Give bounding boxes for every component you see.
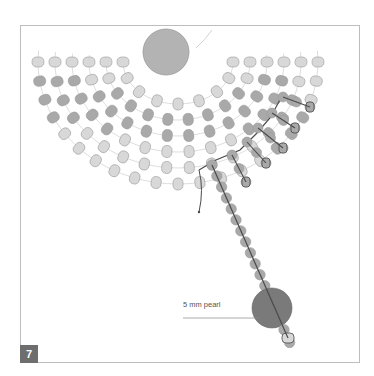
seed-bead: [150, 94, 163, 108]
seed-bead: [38, 93, 53, 107]
seed-bead: [140, 124, 153, 138]
seed-bead: [244, 57, 256, 67]
seed-bead: [240, 72, 255, 86]
seed-bead: [278, 57, 290, 67]
seed-bead: [275, 74, 289, 87]
seed-bead: [88, 153, 103, 168]
seed-bead: [221, 115, 236, 130]
seed-bead: [139, 140, 152, 154]
seed-bead: [33, 75, 47, 87]
seed-bead: [161, 145, 172, 158]
seed-bead: [120, 115, 135, 130]
seed-bead: [141, 107, 155, 122]
seed-bead: [150, 176, 162, 189]
fringe-strands: [227, 92, 315, 187]
seed-bead: [99, 121, 114, 137]
seed-bead: [46, 110, 61, 125]
seed-bead: [83, 57, 95, 67]
seed-bead: [66, 57, 78, 67]
seed-bead: [138, 157, 151, 171]
seed-bead: [50, 75, 64, 87]
seed-bead: [67, 74, 81, 87]
step-number-badge: 7: [20, 345, 38, 363]
seed-bead: [209, 84, 224, 100]
seed-bead: [192, 94, 205, 108]
seed-bead: [183, 129, 194, 142]
pearl-label: 5 mm pearl: [183, 300, 221, 309]
seed-bead: [310, 75, 324, 87]
seed-bead: [56, 93, 71, 107]
seed-bead: [131, 84, 146, 100]
seed-bead: [84, 73, 98, 86]
seed-bead: [161, 161, 172, 174]
seed-bead: [203, 124, 216, 138]
thread-top: [196, 30, 212, 48]
main-strand: [207, 160, 295, 348]
seed-bead: [162, 113, 173, 126]
seed-bead: [128, 171, 141, 185]
seed-bead: [120, 71, 135, 86]
seed-bead: [96, 139, 111, 155]
seed-bead: [184, 161, 195, 174]
seed-bead: [184, 145, 195, 158]
seed-bead: [116, 149, 130, 164]
seed-bead: [257, 73, 271, 86]
seed-bead: [194, 176, 206, 189]
seed-bead: [292, 75, 306, 87]
seed-bead: [123, 98, 138, 114]
seed-bead: [66, 110, 82, 125]
seed-bead: [100, 57, 112, 67]
seed-bead: [295, 57, 307, 67]
seed-bead: [227, 57, 239, 67]
seed-bead: [261, 57, 273, 67]
seed-bead: [49, 57, 61, 67]
seed-bead: [32, 57, 44, 67]
seed-bead: [249, 89, 264, 104]
seed-bead: [224, 132, 238, 147]
seed-bead: [173, 178, 183, 190]
seed-bead: [201, 107, 215, 122]
seed-bead: [173, 98, 183, 110]
seed-bead: [204, 140, 217, 154]
seed-bead: [74, 91, 89, 105]
seed-bead: [218, 98, 233, 114]
seed-bead: [117, 57, 129, 67]
pearl-5mm: [252, 288, 292, 328]
center-bead: [143, 29, 189, 75]
seed-bead: [91, 89, 106, 104]
seed-bead: [107, 163, 121, 178]
seed-bead: [312, 57, 324, 67]
beading-diagram: [0, 0, 374, 376]
seed-bead: [57, 126, 73, 141]
seed-bead: [183, 113, 194, 126]
thread-end-dot: [198, 211, 200, 213]
seed-bead: [221, 71, 236, 86]
seed-bead: [102, 72, 117, 86]
seed-bead: [118, 132, 132, 147]
seed-bead: [162, 129, 173, 142]
